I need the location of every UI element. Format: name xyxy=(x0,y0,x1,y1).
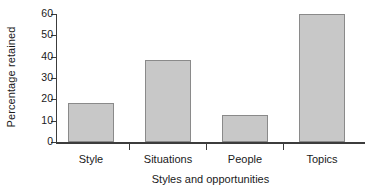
y-tick-label: 0 xyxy=(47,135,53,148)
y-tick-label: 30 xyxy=(41,71,53,84)
x-tick-mark xyxy=(283,144,284,150)
x-tick-mark xyxy=(129,144,130,150)
y-tick-label: 40 xyxy=(41,50,53,63)
x-label-people: People xyxy=(210,152,280,166)
x-axis-line xyxy=(56,142,365,144)
y-tick-label: 60 xyxy=(41,7,53,20)
x-label-topics: Topics xyxy=(287,152,357,166)
y-tick-label: 20 xyxy=(41,92,53,105)
x-axis-title: Styles and opportunities xyxy=(56,172,365,186)
y-tick-label: 10 xyxy=(41,114,53,127)
y-axis-line xyxy=(56,14,57,143)
bar-chart-figure: Percentage retained 0 10 20 30 40 50 xyxy=(0,0,373,192)
y-tick-label: 50 xyxy=(41,28,53,41)
x-label-style: Style xyxy=(56,152,126,166)
bar-people xyxy=(222,115,268,142)
bar-topics xyxy=(299,14,345,142)
bar-style xyxy=(68,103,114,142)
x-label-situations: Situations xyxy=(133,152,203,166)
y-axis-title: Percentage retained xyxy=(3,2,19,152)
bar-situations xyxy=(145,60,191,142)
x-tick-mark xyxy=(206,144,207,150)
plot-area: 0 10 20 30 40 50 60 xyxy=(56,14,365,142)
